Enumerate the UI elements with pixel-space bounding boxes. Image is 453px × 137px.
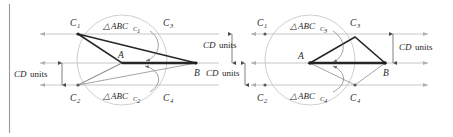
right-vertex-c1-dot: [263, 32, 266, 35]
center-dim-upper-units: units: [219, 40, 237, 50]
center-dimensions: CD units CD units: [203, 34, 245, 85]
left-label-c1-subscript: 1: [77, 22, 80, 29]
left-abc1-delta: △: [102, 21, 110, 31]
right-abc3-sub: 3: [323, 27, 328, 34]
left-label-c1: C: [70, 18, 77, 28]
left-label-triangle-abc1: △ ABC C 1: [102, 21, 140, 34]
left-label-c4-subscript: 4: [170, 97, 174, 104]
right-triangle-abc4: [310, 63, 385, 85]
center-dimension-lower: CD units: [206, 63, 245, 85]
right-label-c4: C: [350, 93, 357, 103]
left-horizontal-lines: [40, 34, 219, 85]
geometry-figure: C 1 C 2 C 3 C 4 A B △ ABC C 1 △ ABC C 2: [0, 0, 453, 137]
left-vertex-c2-dot: [76, 83, 79, 86]
right-vertex-a-dot: [308, 61, 312, 65]
left-triangle-abc1: [78, 34, 196, 63]
right-dim-units-word: units: [415, 42, 433, 52]
right-dim-cd: CD: [399, 42, 412, 52]
right-panel: C 1 C 2 C 3 C 4 A B △ ABC C 3 △ ABC C 4: [251, 15, 433, 105]
right-abc4-sub: 4: [324, 97, 328, 104]
right-abc4-delta: △: [289, 91, 297, 101]
left-abc2-sub: 2: [137, 97, 141, 104]
left-vertex-b-dot: [194, 61, 197, 64]
right-label-c1: C: [257, 18, 264, 28]
right-label-triangle-abc3: △ ABC C 3: [289, 21, 328, 34]
center-dim-upper-cd: CD: [203, 40, 216, 50]
right-label-c1-subscript: 1: [264, 22, 267, 29]
right-label-c3-subscript: 3: [356, 22, 361, 29]
left-label-c3: C: [163, 18, 170, 28]
left-leader-abc2: [145, 66, 159, 92]
left-label-triangle-abc2: △ ABC C 2: [102, 91, 141, 104]
right-label-c4-subscript: 4: [357, 97, 361, 104]
right-label-c3: C: [350, 18, 357, 28]
left-label-c2-subscript: 2: [77, 97, 81, 104]
right-label-a: A: [297, 51, 304, 61]
right-vertex-c4-dot: [353, 83, 356, 86]
left-label-c2: C: [70, 93, 77, 103]
left-label-c4: C: [163, 93, 170, 103]
left-dim-units-word: units: [30, 69, 48, 79]
left-dim-cd: CD: [14, 69, 27, 79]
center-dim-lower-cd: CD: [206, 68, 219, 78]
right-label-b: B: [383, 68, 389, 78]
diagram-root: C 1 C 2 C 3 C 4 A B △ ABC C 1 △ ABC C 2: [0, 0, 453, 137]
right-abc4-body: ABC: [297, 91, 316, 101]
center-dim-lower-units: units: [222, 68, 240, 78]
left-abc1-body: ABC: [110, 21, 129, 31]
left-panel: C 1 C 2 C 3 C 4 A B △ ABC C 1 △ ABC C 2: [14, 15, 219, 105]
center-dimension-upper: CD units: [203, 34, 237, 63]
left-label-b: B: [194, 68, 200, 78]
right-vertex-b-dot: [383, 61, 387, 65]
left-abc2-delta: △: [102, 91, 110, 101]
right-label-c2: C: [257, 93, 264, 103]
right-abc3-delta: △: [289, 21, 297, 31]
left-label-c3-subscript: 3: [169, 22, 174, 29]
right-dimension-cd-units: CD units: [393, 34, 433, 63]
left-label-a: A: [117, 50, 124, 60]
left-abc1-sub: 1: [137, 27, 140, 34]
left-triangle-abc2: [78, 63, 196, 85]
left-vertex-c1-dot: [76, 32, 79, 35]
left-leader-abc1: [146, 31, 158, 61]
left-chord-c2-a: [78, 63, 122, 85]
right-vertex-c2-dot: [263, 83, 266, 86]
left-abc2-body: ABC: [110, 91, 129, 101]
right-abc3-body: ABC: [297, 21, 316, 31]
right-triangle-abc3: [310, 37, 385, 63]
right-label-c2-subscript: 2: [264, 97, 268, 104]
left-dimension-cd-units: CD units: [14, 63, 62, 85]
